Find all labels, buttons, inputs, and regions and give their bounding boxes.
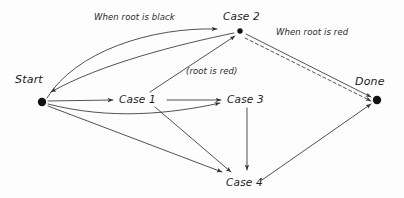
edge-case2-to-start (51, 33, 234, 92)
node-label-case2[interactable]: Case 2 (223, 10, 260, 22)
edge-case1-to-case2 (150, 36, 235, 92)
edge-label-root-is-red: (root is red) (186, 66, 237, 76)
node-label-case1[interactable]: Case 1 (119, 93, 156, 105)
node-dot-done[interactable] (373, 96, 381, 104)
edge-start-to-case2 (47, 29, 217, 98)
node-label-case4[interactable]: Case 4 (226, 176, 263, 188)
node-label-done[interactable]: Done (355, 75, 385, 88)
node-dot-case2[interactable] (237, 28, 242, 33)
edge-start-to-case4 (48, 106, 222, 172)
edge-case4-to-done (262, 104, 371, 180)
node-label-case3[interactable]: Case 3 (227, 93, 264, 105)
diagram-canvas: Start Case 1 Case 2 Case 3 Case 4 Done W… (0, 0, 404, 198)
edge-case1-to-case4 (155, 107, 231, 172)
edge-start-to-case1 (48, 100, 113, 101)
node-label-start[interactable]: Start (15, 73, 43, 86)
edge-case2-to-done-dashed (245, 38, 371, 101)
edge-label-when-root-is-black: When root is black (94, 12, 175, 22)
edge-label-when-root-is-red: When root is red (276, 27, 348, 37)
edge-case2-to-done (246, 34, 371, 97)
node-dot-start[interactable] (38, 98, 46, 106)
